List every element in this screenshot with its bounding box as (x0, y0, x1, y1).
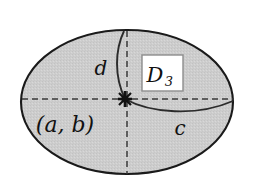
label-curve-c: c (174, 116, 185, 140)
region-label-subscript: 3 (165, 74, 173, 89)
center-point-marker (118, 91, 132, 107)
region-label-box: D 3 (142, 55, 183, 91)
figure-container: d c (a, b) D 3 (0, 0, 253, 188)
label-curve-d: d (95, 56, 108, 80)
domain-partition-diagram: d c (a, b) D 3 (0, 0, 253, 188)
region-label-letter: D (146, 63, 164, 87)
label-coordinates: (a, b) (36, 112, 94, 137)
